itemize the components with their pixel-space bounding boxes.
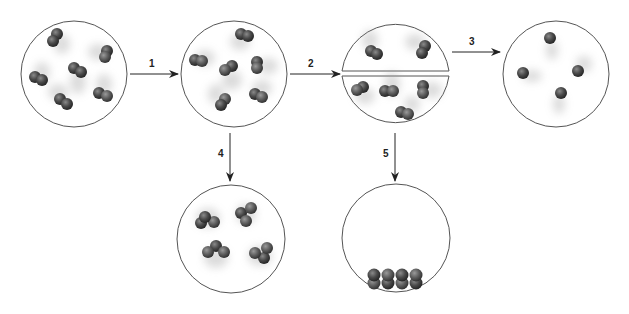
arrow-step-1: 1: [130, 58, 178, 74]
state-diatomic-gas-moving: [181, 21, 287, 127]
container-top-half: [342, 24, 449, 71]
step-label-4: 4: [218, 148, 224, 159]
atom: [544, 32, 556, 44]
step-label-2: 2: [308, 58, 314, 69]
state-monatomic-gas: [503, 21, 609, 127]
arrow-step-4: 4: [218, 133, 230, 181]
molecule: [189, 54, 208, 67]
diagram-canvas: 1 2 3: [0, 0, 629, 314]
state-clustered-molecules: [177, 185, 285, 293]
molecule: [410, 269, 423, 290]
state-diatomic-gas-initial: [21, 21, 127, 127]
step-label-5: 5: [383, 148, 389, 159]
atom: [517, 67, 529, 79]
step-label-1: 1: [149, 58, 155, 69]
arrow-step-5: 5: [383, 133, 395, 181]
arrow-step-2: 2: [290, 58, 340, 74]
molecule: [368, 269, 381, 290]
step-label-3: 3: [469, 36, 475, 47]
state-split-container: [342, 24, 449, 122]
molecule: [379, 85, 399, 97]
container-circle: [177, 185, 285, 293]
molecule: [396, 269, 409, 290]
molecule: [417, 80, 429, 99]
atom: [572, 65, 584, 77]
molecule: [251, 56, 263, 74]
arrow-step-3: 3: [452, 36, 500, 52]
state-condensed-liquid: [342, 184, 450, 292]
atom: [555, 87, 567, 99]
molecule: [382, 269, 395, 290]
